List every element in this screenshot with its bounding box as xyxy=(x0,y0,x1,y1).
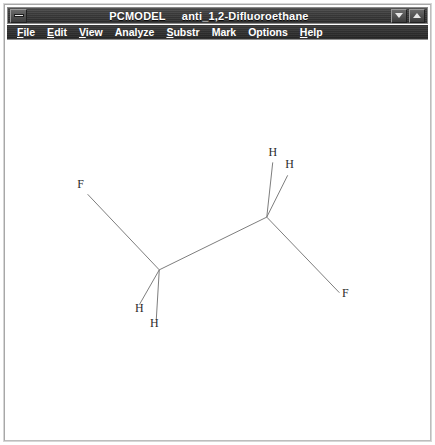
triangle-down-icon xyxy=(395,13,403,18)
menu-item-analyze[interactable]: Analyze xyxy=(109,26,161,38)
system-menu-glyph xyxy=(14,14,24,17)
bond-c2-f2[interactable] xyxy=(267,217,340,293)
menu-item-options[interactable]: Options xyxy=(242,26,294,38)
bond-c1-c2[interactable] xyxy=(159,217,266,270)
atom-label-f1[interactable]: F xyxy=(77,177,84,191)
atom-label-group: FFHHHH xyxy=(77,145,349,329)
menu-bar: File Edit View Analyze Substr Mark Optio… xyxy=(7,25,428,40)
molecule-drawing[interactable]: FFHHHH xyxy=(7,40,428,438)
menu-item-file[interactable]: File xyxy=(11,26,41,38)
molecule-canvas[interactable]: FFHHHH xyxy=(7,40,428,438)
minimize-button[interactable] xyxy=(391,9,407,23)
window-title: PCMODEL anti_1,2-Difluoroethane xyxy=(27,10,391,22)
maximize-button[interactable] xyxy=(409,9,425,23)
menu-item-help[interactable]: Help xyxy=(294,26,329,38)
bond-c1-h4[interactable] xyxy=(156,270,159,320)
menu-item-edit[interactable]: Edit xyxy=(41,26,73,38)
bond-c2-h1[interactable] xyxy=(267,162,273,217)
atom-label-f2[interactable]: F xyxy=(342,286,349,300)
menu-item-mark[interactable]: Mark xyxy=(206,26,243,38)
menu-item-substr[interactable]: Substr xyxy=(160,26,205,38)
system-menu-icon[interactable] xyxy=(10,9,27,23)
pcmodel-application-window: PCMODEL anti_1,2-Difluoroethane File Edi… xyxy=(4,4,431,441)
title-bar[interactable]: PCMODEL anti_1,2-Difluoroethane xyxy=(7,7,428,24)
atom-label-h3[interactable]: H xyxy=(135,301,144,315)
atom-label-h1[interactable]: H xyxy=(268,145,277,159)
bond-c1-h3[interactable] xyxy=(139,270,159,305)
atom-label-h2[interactable]: H xyxy=(285,157,294,171)
menu-item-view[interactable]: View xyxy=(73,26,109,38)
triangle-up-icon xyxy=(413,13,421,18)
bond-c1-f1[interactable] xyxy=(88,194,160,270)
atom-label-h4[interactable]: H xyxy=(150,316,159,330)
bond-c2-h2[interactable] xyxy=(267,175,288,217)
bond-group xyxy=(88,162,340,319)
